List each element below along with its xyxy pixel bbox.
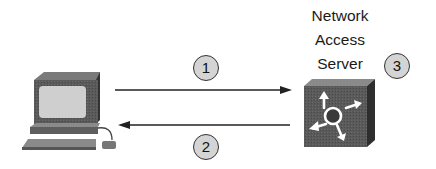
step-badge-2: 2	[193, 134, 219, 160]
nas-label-line-1: Network	[298, 4, 382, 28]
workstation-icon	[22, 72, 116, 150]
nas-label-line-2: Access	[298, 28, 382, 52]
arrow-step-2	[118, 121, 290, 129]
nas-label: Network Access Server	[298, 4, 382, 76]
step-badge-3: 3	[384, 53, 410, 79]
nas-label-line-3: Server	[298, 52, 382, 76]
network-access-server-icon	[304, 79, 375, 147]
arrow-step-1	[115, 86, 292, 94]
step-badge-1: 1	[193, 55, 219, 81]
